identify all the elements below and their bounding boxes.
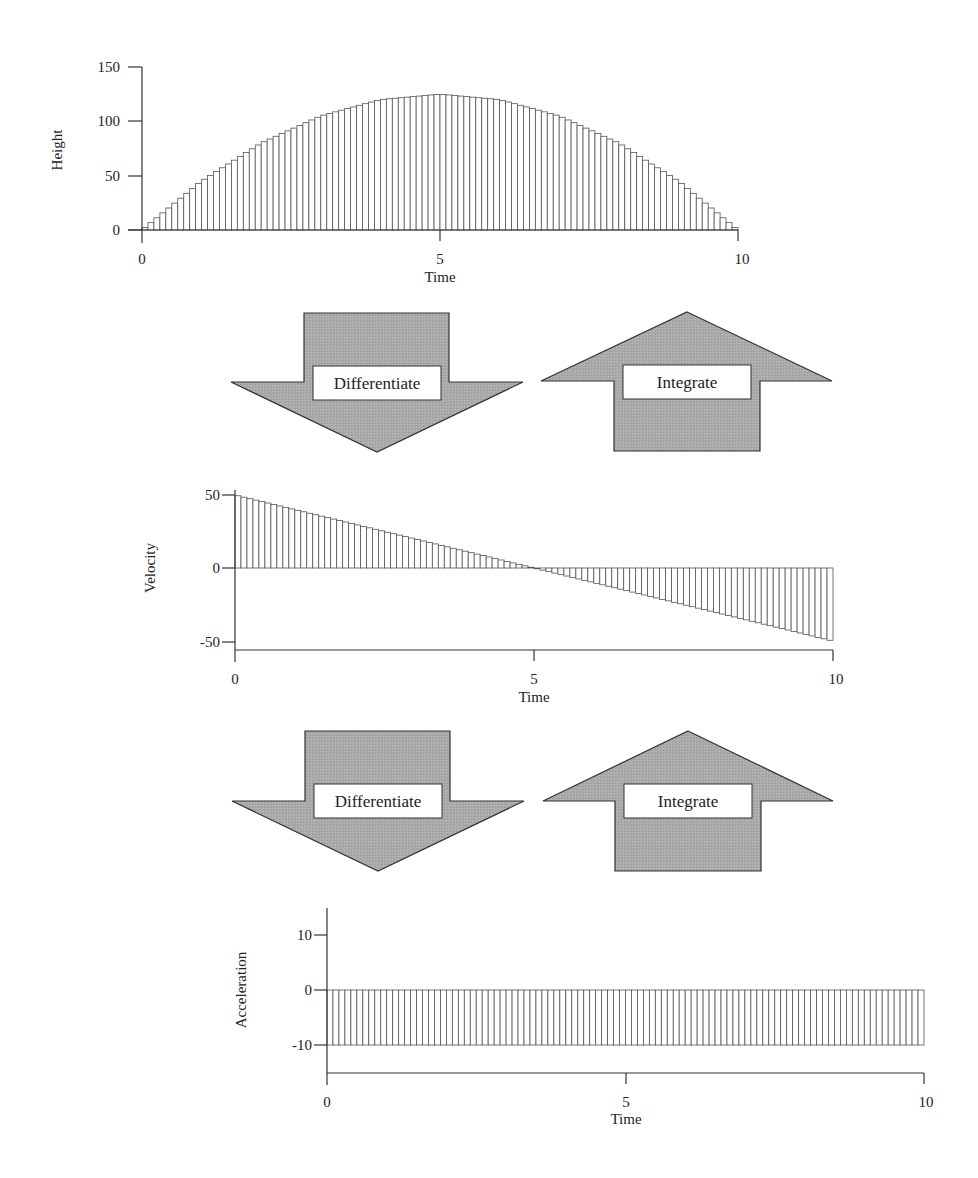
bar <box>396 535 402 568</box>
bar <box>337 521 343 568</box>
bar <box>428 95 434 230</box>
height-bars <box>142 94 738 230</box>
bar <box>606 568 612 586</box>
bar <box>261 142 267 230</box>
bar <box>684 568 690 605</box>
bar <box>614 990 620 1045</box>
bar <box>392 98 398 230</box>
bar <box>918 990 924 1045</box>
bar <box>464 990 470 1045</box>
bar <box>411 990 417 1045</box>
bar <box>589 131 595 230</box>
bar <box>357 990 363 1045</box>
bar <box>703 990 709 1045</box>
bar <box>518 990 524 1045</box>
bar <box>672 568 678 602</box>
bar <box>906 990 912 1045</box>
bar <box>811 990 817 1045</box>
bar <box>546 568 552 572</box>
bar <box>488 990 494 1045</box>
bar <box>480 556 486 568</box>
bar <box>684 188 690 230</box>
bar <box>715 990 721 1045</box>
bar <box>279 134 285 230</box>
bar <box>231 160 237 230</box>
bar <box>488 99 494 230</box>
bar <box>416 96 422 230</box>
bar <box>271 504 277 568</box>
bar <box>208 175 214 230</box>
bar <box>184 193 190 230</box>
bar <box>607 139 613 230</box>
bar <box>876 990 882 1045</box>
bar <box>767 568 773 626</box>
bar <box>827 568 833 640</box>
differentiate-arrow-2: Differentiate <box>232 731 524 871</box>
velocity-xtick-0: 0 <box>231 671 239 687</box>
bar <box>450 548 456 568</box>
bar <box>642 568 648 595</box>
velocity-xtick-5: 5 <box>530 671 538 687</box>
bar <box>482 990 488 1045</box>
bar <box>697 990 703 1045</box>
bar <box>464 97 470 230</box>
velocity-y-title: Velocity <box>142 543 158 593</box>
bar <box>277 506 283 568</box>
height-xtick-0: 0 <box>138 251 146 267</box>
bar <box>769 990 775 1045</box>
bar <box>319 516 325 568</box>
bar <box>458 96 464 230</box>
bar <box>739 990 745 1045</box>
bar <box>713 568 719 613</box>
bar <box>785 568 791 630</box>
bar <box>763 990 769 1045</box>
bar <box>678 568 684 604</box>
bar <box>309 120 315 230</box>
velocity-x-axis <box>235 650 833 661</box>
bar <box>727 990 733 1045</box>
acceleration-y-axis <box>314 908 327 1085</box>
bar <box>817 990 823 1045</box>
bar <box>267 139 273 230</box>
bar <box>679 990 685 1045</box>
bar <box>172 203 178 230</box>
bar <box>235 496 241 568</box>
bar <box>882 990 888 1045</box>
bar <box>803 568 809 634</box>
bar <box>414 540 420 568</box>
bar <box>643 990 649 1045</box>
bar <box>721 990 727 1045</box>
height-ytick-100: 100 <box>98 113 121 129</box>
bar <box>773 568 779 627</box>
bar <box>791 568 797 632</box>
figure-canvas: 150 100 50 0 0 5 10 Time Height Differen… <box>0 0 978 1178</box>
differentiate-label: Differentiate <box>334 374 421 393</box>
bar <box>446 990 452 1045</box>
acceleration-ytick-0: 0 <box>305 982 313 998</box>
bar <box>691 990 697 1045</box>
bar <box>570 568 576 577</box>
bar <box>428 990 434 1045</box>
bar <box>661 990 667 1045</box>
bar <box>612 568 618 588</box>
bar <box>405 990 411 1045</box>
bar <box>781 990 787 1045</box>
height-xtick-10: 10 <box>735 251 750 267</box>
bar <box>733 990 739 1045</box>
bar <box>154 218 160 230</box>
bar <box>385 532 391 568</box>
bar <box>564 568 570 576</box>
integrate-arrow-2: Integrate <box>543 731 833 871</box>
bar <box>775 990 781 1045</box>
bar <box>476 990 482 1045</box>
bar <box>602 990 608 1045</box>
integrate-arrow-1: Integrate <box>541 312 832 451</box>
bar <box>547 113 553 230</box>
velocity-y-axis <box>222 490 235 662</box>
acceleration-ytick-neg10: -10 <box>292 1037 312 1053</box>
bar <box>649 164 655 230</box>
bar <box>572 990 578 1045</box>
bar <box>559 117 565 230</box>
bar <box>751 990 757 1045</box>
bar <box>470 990 476 1045</box>
